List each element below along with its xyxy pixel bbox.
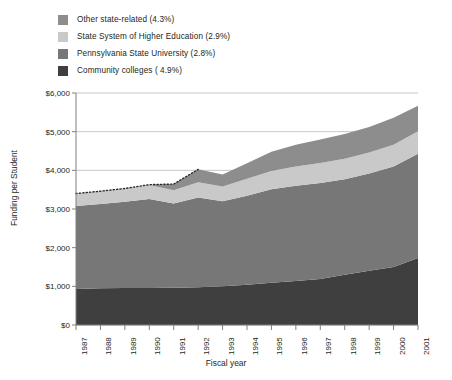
x-axis-tick-label: 1987 [80, 337, 89, 355]
x-axis-tick-label: 1990 [153, 337, 162, 355]
chart-container: Other state-related (4.3%) State System … [0, 0, 452, 380]
x-axis-tick-label: 1989 [129, 337, 138, 355]
x-axis-tick-label: 1995 [275, 337, 284, 355]
x-axis-tick-label: 1994 [251, 337, 260, 355]
x-axis-tick-label: 1996 [300, 337, 309, 355]
x-axis-tick-label: 1991 [178, 337, 187, 355]
x-axis-tick-label: 1998 [349, 337, 358, 355]
x-axis-tick-label: 1988 [104, 337, 113, 355]
x-axis-tick-label: 2001 [422, 337, 431, 355]
x-axis-tick-label: 1997 [324, 337, 333, 355]
x-axis-tick-label: 2000 [398, 337, 407, 355]
x-axis-tick-label: 1999 [373, 337, 382, 355]
x-axis-tick-label: 1993 [227, 337, 236, 355]
x-axis-tick-label: 1992 [202, 337, 211, 355]
x-axis-ticks: 1987198819891990199119921993199419951996… [0, 0, 452, 380]
x-axis-title: Fiscal year [0, 358, 452, 368]
